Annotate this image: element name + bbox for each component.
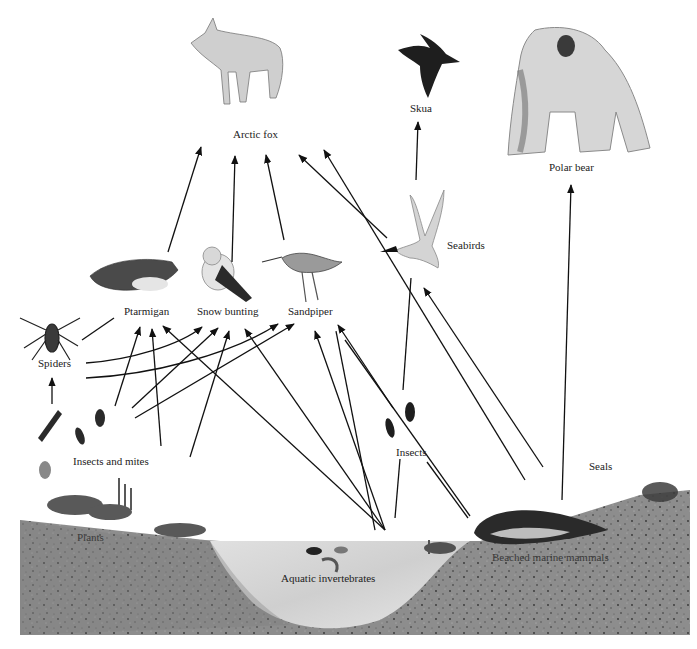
label-seabirds: Seabirds	[447, 239, 485, 251]
insects-and-mites-icon	[38, 409, 105, 479]
label-sandpiper: Sandpiper	[288, 305, 333, 317]
label-polar-bear: Polar bear	[549, 161, 594, 173]
polar-bear-icon	[508, 27, 650, 155]
label-beached-marine-mammals: Beached marine mammals	[492, 551, 609, 563]
label-ptarmigan: Ptarmigan	[124, 305, 169, 317]
label-insects-and-mites: Insects and mites	[73, 455, 149, 467]
label-snow-bunting: Snow bunting	[197, 305, 258, 317]
seabird-icon	[380, 190, 444, 268]
spider-icon	[20, 318, 80, 360]
ptarmigan-icon	[90, 259, 178, 291]
label-insects: Insects	[396, 446, 427, 458]
insects-icon	[384, 402, 415, 439]
arctic-fox-icon	[191, 18, 283, 104]
label-aquatic-invertebrates: Aquatic invertebrates	[281, 572, 375, 584]
food-web-arrows	[52, 122, 571, 530]
label-spiders: Spiders	[38, 357, 71, 369]
snow-bunting-icon	[202, 247, 252, 302]
sandpiper-icon	[262, 253, 342, 302]
label-seals: Seals	[589, 460, 612, 472]
label-arctic-fox: Arctic fox	[233, 128, 278, 140]
skua-icon	[398, 34, 460, 98]
label-skua: Skua	[410, 102, 432, 114]
label-plants: Plants	[77, 531, 104, 543]
